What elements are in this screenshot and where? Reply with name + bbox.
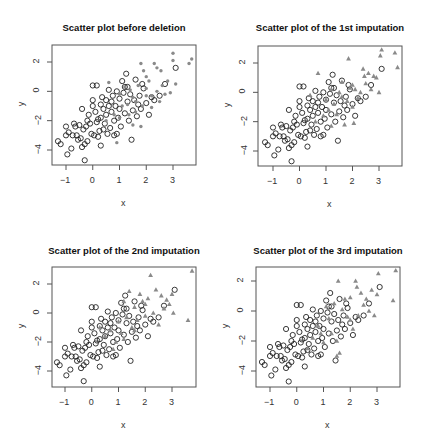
observed-point	[350, 332, 355, 337]
imputed-point	[151, 310, 156, 314]
deleted-point	[139, 62, 142, 65]
observed-point	[106, 87, 111, 92]
imputed-point	[313, 119, 318, 123]
observed-point	[333, 358, 338, 363]
observed-point	[312, 346, 317, 351]
deleted-point	[112, 113, 115, 116]
observed-point	[321, 316, 326, 321]
observed-point	[126, 118, 131, 123]
deleted-point	[104, 119, 107, 122]
observed-point	[69, 146, 74, 151]
observed-point	[297, 329, 302, 334]
deleted-point	[161, 84, 164, 87]
imputed-point	[377, 90, 382, 94]
observed-point	[309, 352, 314, 357]
observed-point	[78, 328, 83, 333]
deleted-point	[169, 91, 172, 94]
deleted-point	[141, 104, 144, 107]
imputed-point	[116, 319, 121, 323]
imputed-point	[308, 93, 313, 97]
observed-point	[310, 307, 315, 312]
deleted-point	[120, 104, 123, 107]
imputed-point	[164, 297, 169, 301]
observed-point	[133, 77, 138, 82]
observed-point	[104, 352, 109, 357]
imputed-point	[363, 81, 368, 85]
observed-point	[328, 290, 333, 295]
observed-point	[311, 132, 316, 137]
imputed-point	[376, 271, 381, 275]
observed-point	[336, 317, 341, 322]
observed-point	[63, 124, 68, 129]
observed-point	[144, 100, 149, 105]
imputed-point	[355, 284, 360, 288]
observed-point	[145, 334, 150, 339]
observed-point	[322, 344, 327, 349]
observed-point	[125, 339, 130, 344]
plots-canvas	[0, 0, 425, 446]
observed-point	[129, 137, 134, 142]
imputed-point	[154, 287, 159, 291]
observed-point	[132, 299, 137, 304]
observed-point	[306, 341, 311, 346]
observed-point	[105, 131, 110, 136]
observed-point	[62, 345, 67, 350]
imputed-point	[146, 296, 151, 300]
observed-point	[283, 326, 288, 331]
observed-point	[286, 379, 291, 384]
observed-point	[320, 335, 325, 340]
deleted-point	[166, 79, 169, 82]
observed-point	[290, 332, 295, 337]
deleted-point	[137, 84, 140, 87]
imputed-point	[143, 313, 148, 317]
observed-point	[342, 326, 347, 331]
observed-point	[341, 313, 346, 318]
observed-point	[118, 124, 123, 129]
imputed-point	[148, 273, 153, 277]
imputed-point	[343, 296, 348, 300]
deleted-point	[107, 81, 110, 84]
observed-point	[117, 96, 122, 101]
imputed-point	[326, 316, 331, 320]
observed-point	[305, 144, 310, 149]
observed-point	[294, 317, 299, 322]
imputed-point	[316, 71, 321, 75]
observed-point	[134, 114, 139, 119]
observed-point	[321, 90, 326, 95]
observed-point	[143, 322, 148, 327]
observed-point	[116, 328, 121, 333]
imputed-point	[127, 289, 132, 293]
observed-point	[109, 315, 114, 320]
observed-point	[297, 99, 302, 104]
observed-point	[120, 78, 125, 83]
deleted-point	[163, 93, 166, 96]
observed-point	[113, 310, 118, 315]
imputed-point	[369, 287, 374, 291]
observed-point	[109, 99, 114, 104]
observed-point	[361, 313, 366, 318]
observed-point	[293, 113, 298, 118]
deleted-point	[187, 62, 190, 65]
imputed-point	[121, 299, 126, 303]
observed-point	[305, 326, 310, 331]
observed-point	[90, 98, 95, 103]
observed-point	[310, 113, 315, 118]
imputed-point	[351, 326, 356, 330]
observed-point	[133, 335, 138, 340]
observed-point	[122, 111, 127, 116]
observed-point	[82, 158, 87, 163]
imputed-point	[366, 71, 371, 75]
deleted-point	[134, 100, 137, 103]
deleted-point	[129, 88, 132, 91]
imputed-point	[336, 278, 341, 282]
observed-point	[269, 373, 274, 378]
observed-point	[313, 88, 318, 93]
imputed-point	[138, 292, 143, 296]
observed-point	[345, 107, 350, 112]
observed-point	[121, 90, 126, 95]
deleted-point	[174, 82, 177, 85]
observed-point	[101, 342, 106, 347]
observed-point	[363, 94, 368, 99]
observed-point	[137, 93, 142, 98]
deleted-point	[142, 69, 145, 72]
